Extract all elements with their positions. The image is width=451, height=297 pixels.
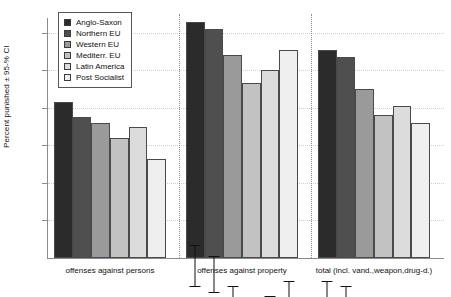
legend-swatch-icon xyxy=(64,19,71,26)
error-bar xyxy=(288,281,289,297)
error-bar-cap xyxy=(322,281,333,282)
legend-swatch-icon xyxy=(64,63,71,70)
bar xyxy=(393,106,412,258)
bar xyxy=(54,102,73,258)
bar xyxy=(261,70,280,258)
y-axis-tick xyxy=(42,108,48,109)
bar xyxy=(223,55,242,258)
group-separator xyxy=(311,14,312,258)
x-axis-tick-label: total (incl. vand.,weapon,drug-d.) xyxy=(290,266,451,275)
legend-swatch-icon xyxy=(64,74,71,81)
bar-group xyxy=(186,14,298,258)
error-bar-cap xyxy=(190,286,201,287)
y-axis-tick xyxy=(42,183,48,184)
legend-item: Western EU xyxy=(64,39,124,50)
error-bar-cap xyxy=(340,286,351,287)
legend-item-label: Northern EU xyxy=(76,28,120,39)
error-bar-cap xyxy=(208,256,219,257)
legend-swatch-icon xyxy=(64,41,71,48)
bar xyxy=(147,159,166,258)
bar xyxy=(411,123,430,258)
legend-item-label: Western EU xyxy=(76,39,119,50)
bar xyxy=(355,89,374,258)
error-bar-cap xyxy=(283,281,294,282)
error-bar xyxy=(232,286,233,297)
y-axis-tick xyxy=(42,70,48,71)
y-axis-tick xyxy=(42,33,48,34)
bar xyxy=(91,123,110,258)
error-bar xyxy=(327,281,328,297)
legend-item-label: Latin America xyxy=(76,61,124,72)
bar xyxy=(205,29,224,258)
bar-group xyxy=(318,14,430,258)
legend-item: Post Socialist xyxy=(64,72,124,83)
bar xyxy=(318,50,337,258)
legend-item: Latin America xyxy=(64,61,124,72)
bar xyxy=(186,22,205,258)
bar xyxy=(374,115,393,258)
y-axis-tick xyxy=(42,145,48,146)
bar xyxy=(337,57,356,258)
bar xyxy=(110,138,129,258)
bar xyxy=(242,83,261,258)
legend-swatch-icon xyxy=(64,30,71,37)
bar xyxy=(73,117,92,258)
legend-item-label: Post Socialist xyxy=(76,72,124,83)
group-separator xyxy=(179,14,180,258)
error-bar-cap xyxy=(190,245,201,246)
legend-item-label: Mediterr. EU xyxy=(76,50,120,61)
error-bar-cap xyxy=(208,292,219,293)
legend-item: Mediterr. EU xyxy=(64,50,124,61)
error-bar xyxy=(345,286,346,297)
error-bar-cap xyxy=(264,296,275,297)
legend-item: Northern EU xyxy=(64,28,124,39)
bar xyxy=(129,127,148,258)
legend-item: Anglo-Saxon xyxy=(64,17,124,28)
legend: Anglo-SaxonNorthern EUWestern EUMediterr… xyxy=(58,12,132,88)
error-bar-cap xyxy=(227,286,238,287)
x-axis-line xyxy=(47,258,444,259)
y-axis-tick xyxy=(42,220,48,221)
y-axis-title: Percent punished ± 95-% CI xyxy=(2,45,11,148)
bar xyxy=(279,50,298,258)
bar-chart: Percent punished ± 95-% CI Anglo-SaxonNo… xyxy=(0,0,451,297)
legend-swatch-icon xyxy=(64,52,71,59)
legend-item-label: Anglo-Saxon xyxy=(76,17,122,28)
